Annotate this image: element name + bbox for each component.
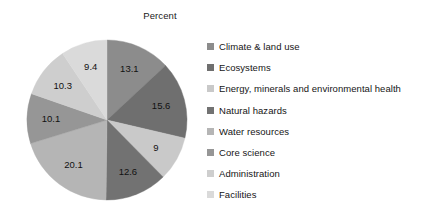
chart-legend: Climate & land useEcosystemsEnergy, mine… <box>207 36 437 206</box>
legend-swatch-icon <box>207 128 214 135</box>
legend-item[interactable]: Facilities <box>207 184 437 205</box>
legend-item-label: Facilities <box>219 189 256 200</box>
legend-item-label: Energy, minerals and environmental healt… <box>219 83 401 94</box>
legend-item[interactable]: Climate & land use <box>207 36 437 57</box>
pie-slice-value-label: 9 <box>153 142 158 153</box>
legend-item-label: Climate & land use <box>219 41 300 52</box>
pie-plot-area: 13.115.6912.620.110.110.39.4 <box>20 26 200 219</box>
pie-chart-figure: Percent 13.115.6912.620.110.110.39.4 Cli… <box>0 0 437 219</box>
legend-item[interactable]: Ecosystems <box>207 57 437 78</box>
legend-swatch-icon <box>207 43 214 50</box>
legend-item[interactable]: Administration <box>207 163 437 184</box>
legend-swatch-icon <box>207 64 214 71</box>
legend-swatch-icon <box>207 107 214 114</box>
legend-swatch-icon <box>207 149 214 156</box>
pie-svg: 13.115.6912.620.110.110.39.4 <box>20 26 200 219</box>
legend-item-label: Natural hazards <box>219 105 287 116</box>
pie-slice-value-label: 13.1 <box>120 63 139 74</box>
legend-item[interactable]: Core science <box>207 142 437 163</box>
pie-slice-value-label: 10.1 <box>42 113 61 124</box>
pie-slice-value-label: 10.3 <box>53 80 72 91</box>
legend-item[interactable]: Energy, minerals and environmental healt… <box>207 78 437 99</box>
pie-slice-value-label: 20.1 <box>64 159 83 170</box>
chart-title: Percent <box>0 10 320 21</box>
legend-swatch-icon <box>207 170 214 177</box>
legend-item-label: Ecosystems <box>219 62 271 73</box>
legend-swatch-icon <box>207 191 214 198</box>
legend-swatch-icon <box>207 85 214 92</box>
legend-item-label: Administration <box>219 168 280 179</box>
legend-item-label: Core science <box>219 147 275 158</box>
legend-item-label: Water resources <box>219 126 289 137</box>
pie-slice-value-label: 9.4 <box>84 61 97 72</box>
legend-item[interactable]: Water resources <box>207 121 437 142</box>
legend-item[interactable]: Natural hazards <box>207 100 437 121</box>
pie-slice-value-label: 12.6 <box>119 166 137 177</box>
pie-slice-value-label: 15.6 <box>152 100 171 111</box>
